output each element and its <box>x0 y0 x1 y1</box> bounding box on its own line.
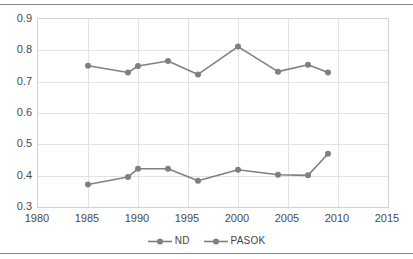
y-axis-tick-label: 0.3 <box>0 201 32 212</box>
data-point-marker <box>125 174 131 180</box>
data-point-marker <box>235 167 241 173</box>
x-axis-tick-label: 1990 <box>115 213 159 224</box>
legend-swatch-icon <box>204 237 228 246</box>
x-axis-tick-label: 1985 <box>65 213 109 224</box>
data-point-marker <box>85 181 91 187</box>
x-axis-tick-label: 2000 <box>215 213 259 224</box>
legend-label: PASOK <box>231 236 266 246</box>
x-axis-tick-label: 1995 <box>165 213 209 224</box>
y-axis-tick-label: 0.4 <box>0 170 32 181</box>
y-axis-tick-label: 0.5 <box>0 138 32 149</box>
page-bottom-rule <box>0 253 413 254</box>
data-point-marker <box>195 71 201 77</box>
x-axis-tick-label: 1980 <box>15 213 59 224</box>
page-top-rule <box>0 4 413 5</box>
data-point-marker <box>325 70 331 76</box>
data-point-marker <box>275 172 281 178</box>
plot-area <box>37 18 389 208</box>
data-point-marker <box>135 63 141 69</box>
y-axis-tick-label: 0.6 <box>0 107 32 118</box>
data-point-marker <box>165 58 171 64</box>
x-axis-tick-label: 2015 <box>365 213 409 224</box>
x-axis-tick-label: 2005 <box>265 213 309 224</box>
series-line-pasok <box>88 154 328 185</box>
data-point-marker <box>275 69 281 75</box>
data-point-marker <box>165 166 171 172</box>
series-layer <box>38 19 388 207</box>
series-line-nd <box>88 47 328 75</box>
y-axis-tick-label: 0.8 <box>0 44 32 55</box>
y-axis-tick-label: 0.9 <box>0 13 32 24</box>
data-point-marker <box>135 166 141 172</box>
data-point-marker <box>85 63 91 69</box>
y-axis-tick-label: 0.7 <box>0 76 32 87</box>
chart-container: 0.30.40.50.60.70.80.9 198019851990199520… <box>0 0 413 259</box>
data-point-marker <box>305 172 311 178</box>
data-point-marker <box>305 62 311 68</box>
data-point-marker <box>235 44 241 50</box>
legend-item-nd[interactable]: ND <box>148 236 190 246</box>
x-axis-tick-label: 2010 <box>315 213 359 224</box>
data-point-marker <box>325 151 331 157</box>
data-point-marker <box>125 70 131 76</box>
legend-item-pasok[interactable]: PASOK <box>204 236 266 246</box>
data-point-marker <box>195 178 201 184</box>
legend-swatch-icon <box>148 237 172 246</box>
chart-legend: NDPASOK <box>0 236 413 246</box>
legend-label: ND <box>175 236 190 246</box>
